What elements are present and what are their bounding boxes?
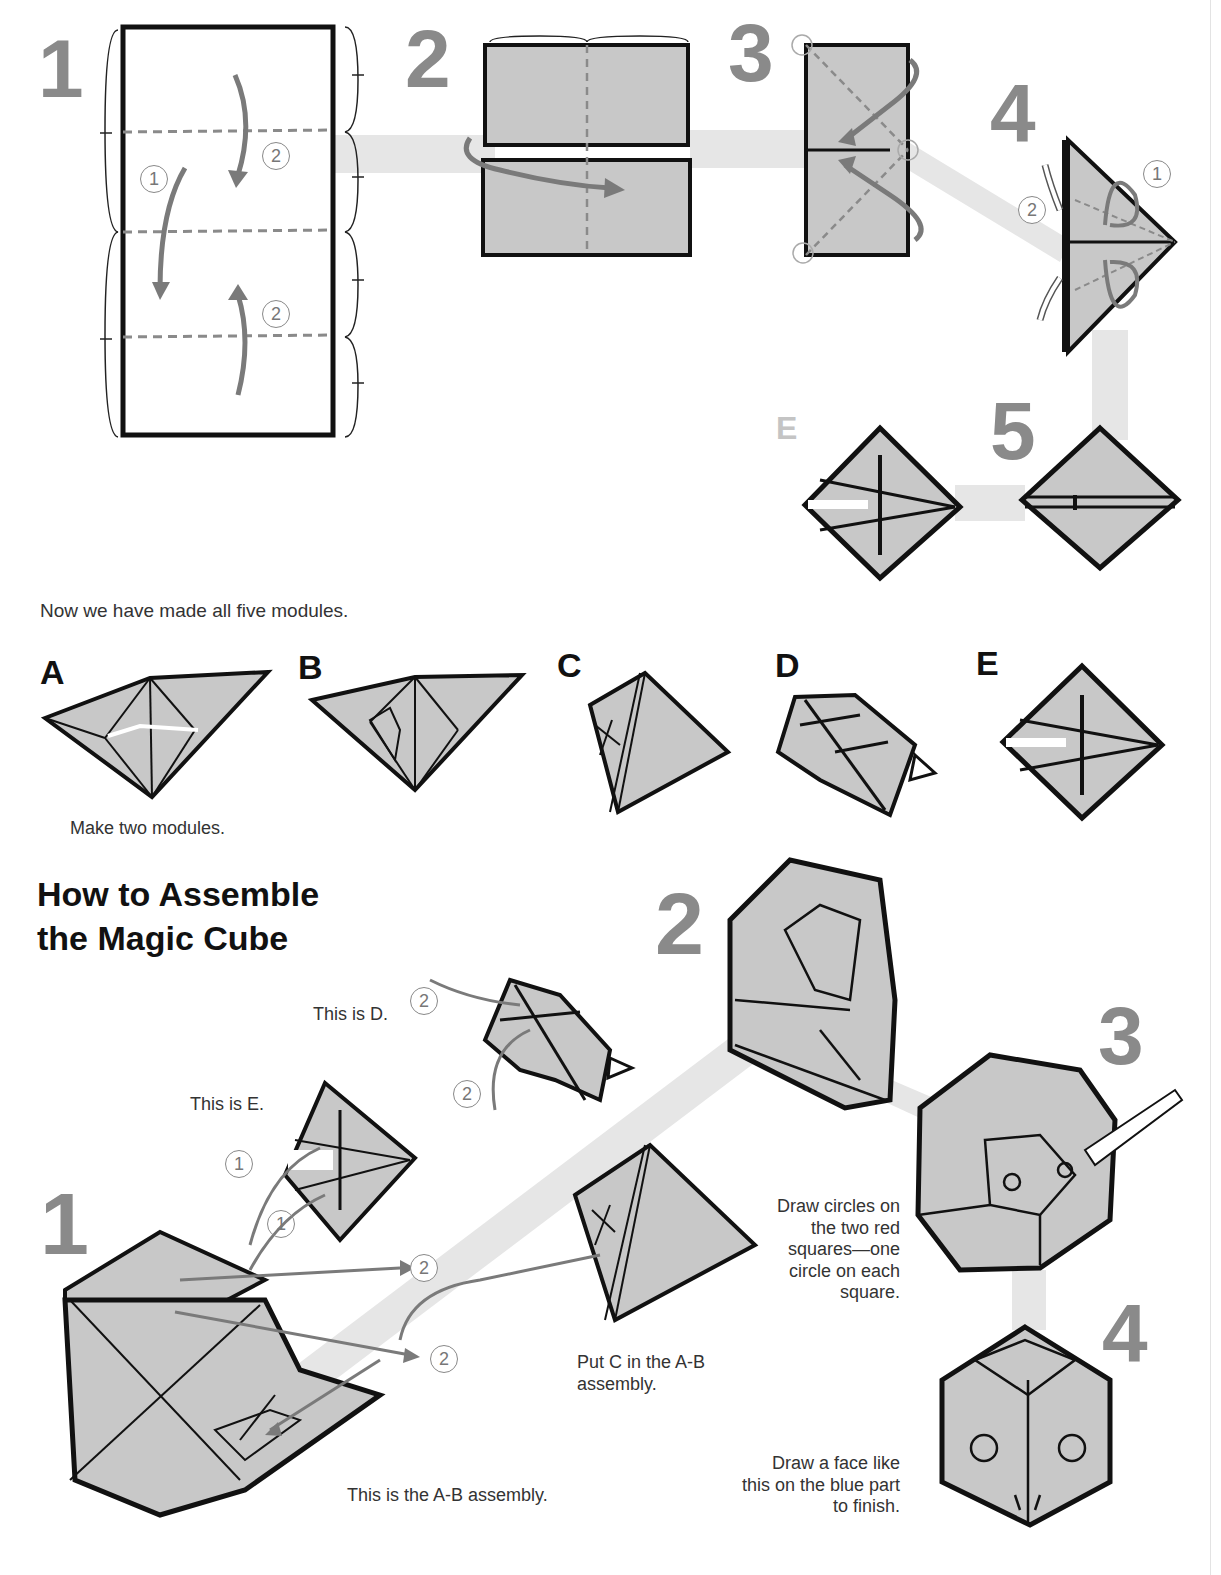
- step-number-4: 4: [990, 72, 1036, 154]
- assembly-heading-line2: the Magic Cube: [37, 917, 319, 961]
- step-number-5: 5: [990, 390, 1036, 472]
- assembly-heading-line1: How to Assemble: [37, 873, 319, 917]
- assembly-marker-1b: 1: [267, 1210, 295, 1238]
- module-label-b: B: [298, 650, 323, 684]
- step2-paper: [466, 36, 690, 255]
- step1-paper: [100, 27, 364, 437]
- module-c-drawing: [590, 673, 728, 812]
- step5-module-e: [805, 428, 960, 578]
- fold-marker-1: 1: [140, 165, 168, 193]
- module-label-d: D: [775, 648, 800, 682]
- fold-marker-2: 2: [262, 142, 290, 170]
- assembly-marker-2b: 2: [453, 1080, 481, 1108]
- step-number-2: 2: [405, 18, 451, 100]
- assembly-module-d: [485, 980, 632, 1100]
- assembly-step2-drawing: [730, 860, 895, 1108]
- assembly-step-1: 1: [40, 1180, 89, 1268]
- module-d-drawing: [778, 695, 935, 815]
- caption-this-is-d: This is D.: [313, 1004, 388, 1026]
- page-edge: [1210, 0, 1211, 1575]
- caption-draw-circles: Draw circles on the two red squares—one …: [755, 1196, 900, 1304]
- diagram-graphics: [0, 0, 1221, 1575]
- assembly-marker-2a: 2: [410, 987, 438, 1015]
- module-b-drawing: [312, 675, 522, 790]
- step-number-3: 3: [728, 12, 774, 94]
- assembly-marker-2c: 2: [410, 1254, 438, 1282]
- step5-module: [1022, 428, 1178, 568]
- module-label-c: C: [557, 648, 582, 682]
- caption-draw-face: Draw a face like this on the blue part t…: [740, 1453, 900, 1518]
- assembly-step-4: 4: [1102, 1292, 1148, 1374]
- make-two-note: Make two modules.: [70, 818, 225, 840]
- assembly-marker-2d: 2: [430, 1345, 458, 1373]
- assembly-step3-cube: [918, 1055, 1182, 1270]
- module-label-e: E: [976, 646, 999, 680]
- assembly-step-2: 2: [655, 880, 704, 968]
- assembly-step-3: 3: [1098, 995, 1144, 1077]
- module-e-drawing: [1003, 666, 1162, 818]
- caption-this-is-e: This is E.: [190, 1094, 264, 1116]
- fold-marker-2c: 2: [1018, 196, 1046, 224]
- assembly-marker-1a: 1: [225, 1150, 253, 1178]
- assembly-module-e: [285, 1083, 415, 1240]
- caption-ab-assembly: This is the A-B assembly.: [347, 1485, 548, 1507]
- assembly-heading: How to Assemble the Magic Cube: [37, 873, 319, 960]
- module-label-e-small: E: [776, 412, 797, 444]
- module-a-drawing: [45, 672, 268, 797]
- assembly-step4-cube: [942, 1327, 1110, 1525]
- step-number-1: 1: [38, 28, 84, 110]
- step3-paper: [792, 35, 921, 263]
- fold-marker-2b: 2: [262, 300, 290, 328]
- module-label-a: A: [40, 655, 65, 689]
- fold-marker-1b: 1: [1143, 160, 1171, 188]
- caption-put-c: Put C in the A-B assembly.: [577, 1352, 737, 1395]
- modules-intro: Now we have made all five modules.: [40, 600, 348, 623]
